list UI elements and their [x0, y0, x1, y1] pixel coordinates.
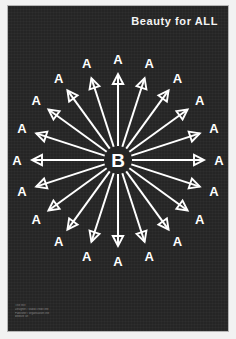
outer-label: A — [82, 249, 92, 264]
outer-label: A — [113, 52, 123, 67]
burst-svg: B AAAAAAAAAAAAAAAAAAAA — [8, 44, 228, 276]
outer-label: A — [173, 234, 183, 249]
arrowhead-icon — [36, 179, 47, 189]
outer-label: A — [209, 121, 219, 136]
outer-label: A — [209, 184, 219, 199]
page-title: Beauty for ALL — [131, 15, 218, 27]
arrowhead-icon — [36, 132, 47, 142]
outer-label: A — [17, 121, 27, 136]
outer-label: A — [32, 93, 42, 108]
outer-label: A — [195, 212, 205, 227]
screenshot-canvas: Beauty for ALL B AAAAAAAAAAAAAAAAAAAA Ti… — [0, 0, 236, 339]
arrowhead-icon — [189, 132, 200, 142]
outer-label: A — [195, 93, 205, 108]
credit-line: website url — [15, 315, 135, 319]
radial-diagram: B AAAAAAAAAAAAAAAAAAAA — [8, 44, 228, 276]
outer-label: A — [54, 71, 64, 86]
outer-label: A — [12, 153, 22, 168]
outer-label: A — [214, 153, 224, 168]
outer-label: A — [17, 184, 27, 199]
outer-label: A — [113, 254, 123, 269]
poster: Beauty for ALL B AAAAAAAAAAAAAAAAAAAA Ti… — [8, 6, 228, 331]
arrowhead-icon — [90, 231, 100, 242]
credit-block: Title text Designer / studio credit line… — [15, 304, 135, 319]
outer-label: A — [32, 212, 42, 227]
arrowhead-icon — [189, 179, 200, 189]
center-label: B — [111, 150, 125, 171]
arrowhead-icon — [137, 231, 147, 242]
outer-label: A — [82, 56, 92, 71]
arrowhead-icon — [90, 78, 100, 89]
outer-label: A — [54, 234, 64, 249]
arrowhead-icon — [137, 78, 147, 89]
outer-label: A — [145, 56, 155, 71]
outer-label: A — [173, 71, 183, 86]
outer-label: A — [145, 249, 155, 264]
center-node: B — [105, 147, 131, 173]
